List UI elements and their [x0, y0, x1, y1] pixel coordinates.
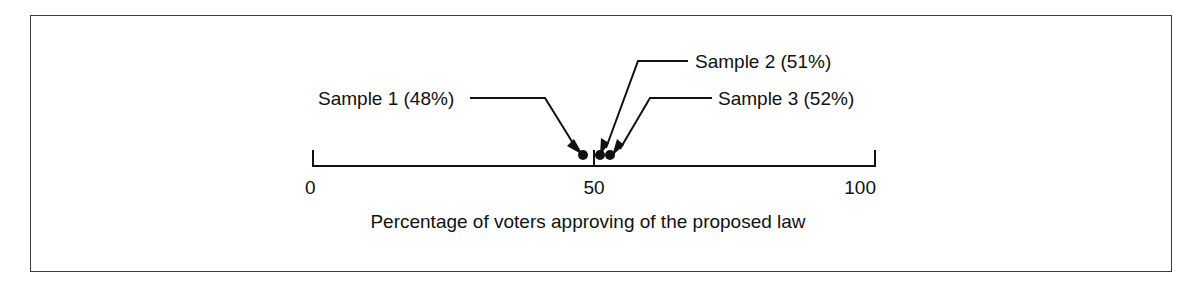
arrowhead-sample-1 — [567, 139, 583, 155]
axis-tick-label-50: 50 — [583, 178, 604, 197]
axis-tick-label-0: 0 — [305, 178, 316, 197]
annotation-label-sample-3: Sample 3 (52%) — [718, 89, 854, 108]
annotation-label-sample-2: Sample 2 (51%) — [695, 52, 831, 71]
leader-line-sample-1 — [470, 98, 576, 148]
data-point-sample-2 — [595, 150, 605, 160]
figure-container: Sample 1 (48%) Sample 2 (51%) Sample 3 (… — [0, 0, 1196, 290]
annotation-label-sample-1: Sample 1 (48%) — [318, 89, 454, 108]
arrowhead-sample-3 — [612, 139, 624, 156]
leader-line-sample-3 — [620, 98, 712, 149]
number-line-plot — [0, 0, 1196, 290]
axis-tick-label-100: 100 — [844, 178, 876, 197]
axis-caption: Percentage of voters approving of the pr… — [370, 212, 805, 231]
